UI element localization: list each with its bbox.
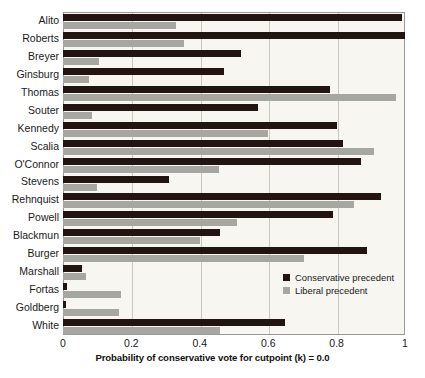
y-axis-label-marshall: Marshall: [0, 265, 59, 277]
bar-row: [63, 209, 405, 227]
bar-liberal: [63, 291, 121, 298]
bar-conservative: [63, 158, 361, 165]
bar-row: [63, 174, 405, 192]
bar-conservative: [63, 68, 224, 75]
bar-row: [63, 12, 405, 30]
bar-conservative: [63, 50, 241, 57]
bar-row: [63, 138, 405, 156]
bar-conservative: [63, 176, 169, 183]
bar-conservative: [63, 140, 343, 147]
bar-liberal: [63, 201, 354, 208]
bar-row: [63, 48, 405, 66]
bar-conservative: [63, 265, 82, 272]
bar-conservative: [63, 86, 330, 93]
bar-row: [63, 102, 405, 120]
bar-row: [63, 299, 405, 317]
y-axis-label-burger: Burger: [0, 247, 59, 259]
y-axis-label-scalia: Scalia: [0, 140, 59, 152]
bar-liberal: [63, 76, 89, 83]
chart-legend: Conservative precedentLiberal precedent: [283, 271, 394, 297]
bar-conservative: [63, 301, 66, 308]
x-tick-label: 0: [60, 337, 66, 349]
bar-row: [63, 84, 405, 102]
bar-conservative: [63, 32, 405, 39]
y-axis-label-roberts: Roberts: [0, 32, 59, 44]
y-axis-label-rehnquist: Rehnquist: [0, 193, 59, 205]
bar-conservative: [63, 247, 367, 254]
bar-row: [63, 30, 405, 48]
bar-conservative: [63, 283, 67, 290]
y-axis-label-goldberg: Goldberg: [0, 301, 59, 313]
x-axis-title: Probability of conservative vote for cut…: [0, 352, 425, 363]
legend-swatch-icon: [283, 274, 290, 281]
x-tick-label: 0.8: [329, 337, 344, 349]
bar-liberal: [63, 219, 237, 226]
bar-liberal: [63, 237, 200, 244]
y-axis-label-white: White: [0, 319, 59, 331]
bar-liberal: [63, 94, 396, 101]
y-axis-label-ginsburg: Ginsburg: [0, 68, 59, 80]
bar-liberal: [63, 130, 268, 137]
y-axis-label-kennedy: Kennedy: [0, 122, 59, 134]
y-axis-label-oconnor: O'Connor: [0, 158, 59, 170]
bar-liberal: [63, 22, 176, 29]
legend-label: Liberal precedent: [295, 285, 367, 296]
bar-row: [63, 156, 405, 174]
bar-conservative: [63, 211, 333, 218]
x-tick-label: 0.6: [261, 337, 276, 349]
bar-chart-figure: AlitoRobertsBreyerGinsburgThomasSouterKe…: [0, 0, 425, 378]
bar-row: [63, 66, 405, 84]
y-axis-labels: AlitoRobertsBreyerGinsburgThomasSouterKe…: [0, 12, 59, 335]
bar-row: [63, 120, 405, 138]
bar-liberal: [63, 40, 184, 47]
y-axis-label-breyer: Breyer: [0, 50, 59, 62]
bar-conservative: [63, 122, 337, 129]
y-axis-label-alito: Alito: [0, 14, 59, 26]
bar-row: [63, 245, 405, 263]
bar-liberal: [63, 148, 374, 155]
bar-conservative: [63, 229, 220, 236]
bar-row: [63, 317, 405, 335]
bar-liberal: [63, 309, 119, 316]
legend-label: Conservative precedent: [295, 272, 394, 283]
bar-conservative: [63, 104, 258, 111]
x-tick-label: 0.4: [192, 337, 207, 349]
legend-item: Liberal precedent: [283, 284, 394, 297]
legend-item: Conservative precedent: [283, 271, 394, 284]
bar-liberal: [63, 255, 304, 262]
y-axis-label-stevens: Stevens: [0, 175, 59, 187]
bar-liberal: [63, 166, 219, 173]
y-axis-label-powell: Powell: [0, 211, 59, 223]
x-tick-label: 1: [402, 337, 408, 349]
bar-conservative: [63, 319, 285, 326]
bar-liberal: [63, 112, 92, 119]
bar-conservative: [63, 193, 381, 200]
bar-row: [63, 227, 405, 245]
legend-swatch-icon: [283, 287, 290, 294]
bar-liberal: [63, 327, 220, 334]
bar-row: [63, 191, 405, 209]
x-axis-ticks: 00.20.40.60.81: [63, 337, 405, 351]
y-axis-label-fortas: Fortas: [0, 283, 59, 295]
bar-conservative: [63, 14, 402, 21]
bar-liberal: [63, 273, 86, 280]
y-axis-label-blackmun: Blackmun: [0, 229, 59, 241]
bar-liberal: [63, 58, 99, 65]
bar-liberal: [63, 184, 97, 191]
y-axis-label-souter: Souter: [0, 104, 59, 116]
x-tick-label: 0.2: [124, 337, 139, 349]
y-axis-label-thomas: Thomas: [0, 86, 59, 98]
